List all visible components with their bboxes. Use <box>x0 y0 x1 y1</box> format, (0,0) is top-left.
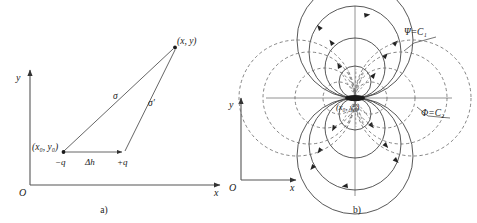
panel-a-x-axis-label: x <box>213 187 219 198</box>
streamline-label-leader <box>404 37 436 51</box>
positive-charge-label: +q <box>117 157 128 167</box>
panel-b-y-axis-label: y <box>228 99 234 110</box>
panel-b-x-axis-label: x <box>289 182 295 193</box>
panel-a: y x O (x, y) (x₀, y₀) −q +q Δh σ σ′ a) <box>15 36 220 216</box>
dipole-core-marker <box>345 95 365 101</box>
negative-charge-label: −q <box>55 157 66 167</box>
equipotential-label: Φ=C₂ <box>421 108 445 118</box>
sigma-segment <box>64 49 173 151</box>
field-point-marker <box>173 46 177 50</box>
separation-label: Δh <box>84 157 95 167</box>
panel-a-y-axis-label: y <box>15 72 21 83</box>
panel-a-caption: a) <box>100 205 107 216</box>
streamline-label: Ψ=C₁ <box>404 27 427 37</box>
panel-b-origin-label: O <box>229 182 236 193</box>
panel-b: y x O <box>228 0 471 216</box>
sigma-prime-label: σ′ <box>148 98 156 108</box>
negative-charge-marker <box>62 150 66 154</box>
panel-a-origin-label: O <box>19 187 26 198</box>
figure-canvas: y x O (x, y) (x₀, y₀) −q +q Δh σ σ′ a) <box>0 0 477 223</box>
panel-b-dipole-label: (x₀, y₀) <box>336 102 360 112</box>
figure-container: y x O (x, y) (x₀, y₀) −q +q Δh σ σ′ a) <box>0 0 477 223</box>
panel-a-field-point-label: (x, y) <box>177 36 197 47</box>
sigma-label: σ <box>113 91 118 101</box>
panel-a-source-point-label: (x₀, y₀) <box>32 142 58 153</box>
panel-b-caption: b) <box>353 205 361 216</box>
